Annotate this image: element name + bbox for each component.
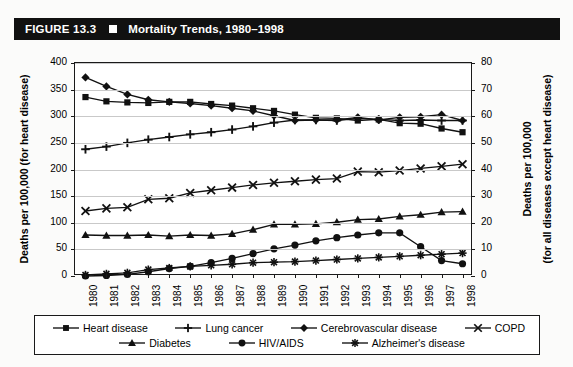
x-axis-tick	[85, 274, 86, 278]
x-axis-tick-label: 1992	[340, 285, 351, 307]
gridline	[75, 249, 471, 250]
legend-item-heart-disease[interactable]: Heart disease	[53, 322, 148, 334]
x-axis-tick	[295, 274, 296, 278]
x-axis-tick-label: 1991	[319, 285, 330, 307]
y-axis-left-tick-label: 50	[33, 242, 67, 253]
legend-marker-circle	[229, 337, 255, 349]
marker-asterisk	[228, 260, 236, 268]
marker-square	[82, 94, 88, 100]
y-axis-right-tick-label: 70	[481, 83, 507, 94]
y-axis-right-tick	[471, 276, 475, 277]
gridline	[75, 116, 471, 117]
y-axis-right-tick-label: 0	[481, 269, 507, 280]
marker-asterisk	[375, 253, 383, 261]
marker-square	[459, 129, 465, 135]
series-line	[85, 164, 462, 211]
marker-diamond	[300, 324, 308, 332]
y-axis-right-title: Deaths per 100,000 (for all diseases exc…	[516, 62, 558, 275]
y-axis-left-title: Deaths per 100,000 (for heart disease)	[16, 62, 32, 275]
series-line	[85, 233, 462, 276]
x-axis-tick-label: 1987	[235, 285, 246, 307]
marker-plus	[228, 125, 237, 134]
y-axis-right-tick	[471, 170, 475, 171]
marker-asterisk	[437, 250, 445, 258]
legend-marker-diamond	[291, 322, 317, 334]
x-axis-tick	[148, 274, 149, 278]
legend-item-label: COPD	[495, 322, 525, 334]
y-axis-left-tick-label: 0	[33, 269, 67, 280]
y-axis-right-title-line2: (for all diseases except heart disease)	[541, 74, 553, 263]
x-axis-tick	[442, 274, 443, 278]
y-axis-right-tick	[471, 196, 475, 197]
y-axis-left-tick	[71, 63, 75, 64]
legend-item-hiv-aids[interactable]: HIV/AIDS	[229, 337, 304, 349]
marker-plus	[165, 133, 174, 142]
y-axis-right-tick	[471, 143, 475, 144]
y-axis-right-tick	[471, 249, 475, 250]
legend-marker-asterisk	[342, 337, 368, 349]
marker-circle	[312, 237, 319, 244]
y-axis-right-tick	[471, 116, 475, 117]
legend-row-2: DiabetesHIV/AIDSAlzheimer's disease	[35, 337, 539, 349]
x-axis-tick	[274, 274, 275, 278]
x-axis-tick-label: 1998	[466, 285, 477, 307]
marker-circle	[249, 250, 256, 257]
marker-diamond	[437, 111, 445, 119]
legend-item-diabetes[interactable]: Diabetes	[119, 337, 190, 349]
marker-square	[103, 98, 109, 104]
y-axis-right-tick	[471, 63, 475, 64]
y-axis-left-tick-label: 100	[33, 216, 67, 227]
x-axis-tick-label: 1994	[382, 285, 393, 307]
legend: Heart diseaseLung cancerCerebrovascular …	[34, 315, 540, 355]
x-axis-tick	[421, 274, 422, 278]
legend-item-copd[interactable]: COPD	[465, 322, 525, 334]
marker-diamond	[458, 116, 466, 124]
marker-diamond	[123, 90, 131, 98]
x-axis-tick-label: 1996	[424, 285, 435, 307]
x-axis-tick	[253, 274, 254, 278]
y-axis-left-tick	[71, 223, 75, 224]
marker-asterisk	[396, 252, 404, 260]
legend-item-cerebrovascular-disease[interactable]: Cerebrovascular disease	[291, 322, 437, 334]
marker-plus	[184, 323, 192, 331]
y-axis-left-tick	[71, 249, 75, 250]
x-axis-tick-label: 1988	[256, 285, 267, 307]
x-axis-tick-label: 1990	[298, 285, 309, 307]
gridline	[75, 90, 471, 91]
marker-asterisk	[351, 339, 359, 347]
gridline	[75, 143, 471, 144]
legend-item-alzheimer-s-disease[interactable]: Alzheimer's disease	[342, 337, 465, 349]
x-axis-tick	[316, 274, 317, 278]
legend-item-label: Cerebrovascular disease	[321, 322, 437, 334]
x-axis-tick-label: 1986	[214, 285, 225, 307]
x-axis-tick	[358, 274, 359, 278]
y-axis-left-tick	[71, 276, 75, 277]
gridline	[75, 223, 471, 224]
marker-diamond	[81, 73, 89, 81]
x-axis-tick-label: 1981	[109, 285, 120, 307]
marker-asterisk	[186, 262, 194, 270]
x-axis-tick	[379, 274, 380, 278]
marker-asterisk	[291, 258, 299, 266]
marker-asterisk	[144, 266, 152, 274]
y-axis-left-title-text: Deaths per 100,000 (for heart disease)	[18, 74, 30, 263]
legend-item-lung-cancer[interactable]: Lung cancer	[175, 322, 263, 334]
figure-title: Mortality Trends, 1980–1998	[128, 23, 283, 35]
y-axis-left-tick-label: 300	[33, 109, 67, 120]
y-axis-right-tick-label: 60	[481, 109, 507, 120]
x-axis-tick	[337, 274, 338, 278]
gridline	[75, 63, 471, 64]
x-axis-tick	[190, 274, 191, 278]
legend-marker-triangle	[119, 337, 145, 349]
figure-container: FIGURE 13.3 Mortality Trends, 1980–1998 …	[0, 0, 573, 367]
y-axis-left-tick	[71, 90, 75, 91]
marker-plus	[207, 128, 216, 137]
y-axis-left-tick	[71, 116, 75, 117]
marker-plus	[249, 122, 258, 131]
figure-title-bar: FIGURE 13.3 Mortality Trends, 1980–1998	[14, 18, 560, 40]
legend-item-label: HIV/AIDS	[259, 337, 304, 349]
x-axis-tick	[211, 274, 212, 278]
series-hiv-aids	[82, 229, 466, 279]
marker-asterisk	[270, 258, 278, 266]
legend-marker-plus	[175, 322, 201, 334]
